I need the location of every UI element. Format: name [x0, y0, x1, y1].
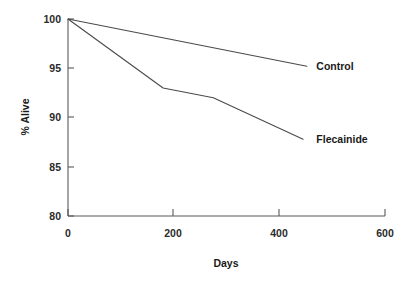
chart-svg: 100 95 90 85 80 0 200 400 600 Days % Ali…	[0, 0, 417, 282]
series-label-control: Control	[316, 60, 353, 72]
series-label-flecainide: Flecainide	[316, 133, 368, 145]
y-tick-label-100: 100	[43, 13, 61, 25]
y-tick-label-90: 90	[49, 111, 61, 123]
x-tick-label-400: 400	[270, 227, 288, 239]
y-tick-label-85: 85	[49, 161, 61, 173]
x-tick-label-0: 0	[65, 227, 71, 239]
x-tick-label-200: 200	[164, 227, 182, 239]
y-tick-label-80: 80	[49, 210, 61, 222]
survival-chart: 100 95 90 85 80 0 200 400 600 Days % Ali…	[0, 0, 417, 282]
y-tick-label-95: 95	[49, 62, 61, 74]
y-axis-title: % Alive	[19, 98, 31, 135]
x-axis-title: Days	[213, 257, 238, 269]
x-tick-label-600: 600	[376, 227, 394, 239]
